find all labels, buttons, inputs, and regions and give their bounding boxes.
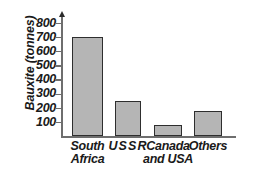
y-axis-line [61,16,63,137]
y-axis-tick-label: 400 [22,73,56,86]
y-axis-tick-label: 800 [22,17,56,30]
bauxite-bar-chart: Bauxite (tonnes) 80070060050040030020010… [0,0,256,175]
y-axis-tick-labels: 800700600500400300200100 [22,0,56,175]
x-axis-line [61,136,236,138]
x-axis-label-others: Others [176,140,240,153]
bar-canada-and-usa [154,125,182,136]
y-axis-tick-label: 300 [22,87,56,100]
y-axis-tick-label: 700 [22,31,56,44]
y-axis-tick-label: 600 [22,45,56,58]
bar-others [194,111,222,136]
axis-arrow-up-icon [59,11,65,17]
bar-ussr [115,101,141,136]
bar-south-africa [72,37,103,136]
y-axis-tick-label: 100 [22,116,56,129]
y-axis-tick-label: 500 [22,59,56,72]
y-axis-tick-label: 200 [22,102,56,115]
